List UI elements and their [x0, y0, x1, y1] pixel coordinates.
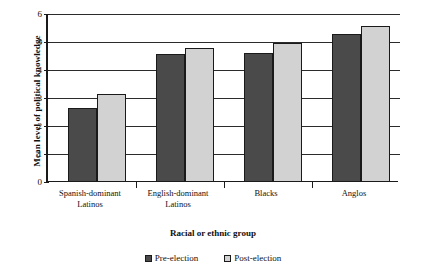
legend-swatch-icon-post-election [224, 255, 231, 262]
y-tick-1 [44, 154, 49, 155]
legend-entry-post-election: Post-election [224, 253, 281, 263]
y-tick-label-6: 6 [20, 10, 42, 19]
bar-post-spanish-dominant-latinos [97, 94, 126, 182]
category-label-line-1: Blacks [222, 188, 310, 199]
bar-post-anglos [361, 26, 390, 182]
bar-post-blacks [273, 43, 302, 182]
legend-swatch-icon-pre-election [145, 255, 152, 262]
y-tick-label-5: 5 [20, 38, 42, 47]
y-tick-3 [44, 98, 49, 99]
y-tick-label-4: 4 [20, 66, 42, 75]
category-label-english-dominant-latinos: English-dominant Latinos [134, 188, 222, 209]
plot-area [46, 14, 398, 182]
category-label-line-1: Spanish-dominant [46, 188, 134, 199]
gridline-6 [48, 14, 400, 15]
y-tick-label-3: 3 [20, 94, 42, 103]
bar-chart: Mean level of political knowledge [0, 0, 426, 277]
y-tick-0 [44, 182, 49, 183]
x-axis-title: Racial or ethnic group [0, 228, 426, 238]
y-tick-label-1: 1 [20, 150, 42, 159]
bar-pre-blacks [244, 53, 273, 182]
y-tick-6 [44, 14, 49, 15]
category-label-line-1: English-dominant [134, 188, 222, 199]
y-tick-5 [44, 42, 49, 43]
y-tick-2 [44, 126, 49, 127]
category-label-blacks: Blacks [222, 188, 310, 199]
category-label-line-2: Latinos [134, 199, 222, 210]
y-tick-label-2: 2 [20, 122, 42, 131]
category-label-line-1: Anglos [310, 188, 398, 199]
bar-pre-anglos [332, 34, 361, 182]
y-tick-4 [44, 70, 49, 71]
bar-pre-english-dominant-latinos [156, 54, 185, 182]
category-label-anglos: Anglos [310, 188, 398, 199]
legend-label-pre-election: Pre-election [155, 253, 198, 263]
category-label-line-2: Latinos [46, 199, 134, 210]
bar-pre-spanish-dominant-latinos [68, 108, 97, 182]
bar-post-english-dominant-latinos [185, 48, 214, 182]
legend: Pre-election Post-election [0, 253, 426, 263]
legend-label-post-election: Post-election [234, 253, 281, 263]
y-tick-label-0: 0 [20, 178, 42, 187]
legend-entry-pre-election: Pre-election [145, 253, 198, 263]
category-label-spanish-dominant-latinos: Spanish-dominant Latinos [46, 188, 134, 209]
